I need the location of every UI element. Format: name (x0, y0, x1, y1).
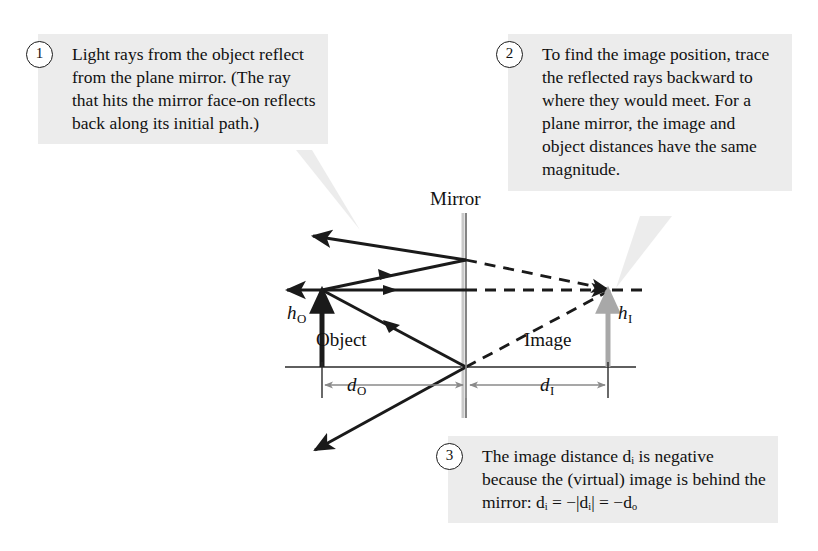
callout-1-text: Light rays from the object reflect from … (72, 43, 318, 135)
callout-step-2: 2 To find the image position, trace the … (508, 34, 792, 191)
reflected-ray-lower (315, 367, 466, 450)
object-label: Object (316, 329, 367, 351)
image-distance-label: dI (540, 374, 554, 399)
callout-1-pointer (296, 150, 360, 230)
figure-page: Mirror Object Image hO hI dO dI 1 Light … (0, 0, 818, 551)
incident-ray-upper-arrowhead (378, 269, 393, 280)
incident-ray-upper (322, 260, 466, 290)
callout-2-pointer (616, 216, 672, 288)
callout-2-text: To find the image position, trace the re… (542, 43, 782, 182)
mirror-label: Mirror (430, 188, 481, 210)
callout-2-number: 2 (496, 41, 523, 68)
callout-3-text: The image distance dᵢ is negative becaus… (482, 445, 768, 514)
image-distance-subscript: I (550, 383, 554, 398)
callout-1-number: 1 (26, 41, 53, 68)
object-distance-symbol: d (347, 374, 357, 395)
object-height-label: hO (287, 302, 306, 327)
image-height-symbol: h (618, 302, 628, 323)
object-distance-subscript: O (357, 383, 366, 398)
image-height-label: hI (618, 302, 632, 327)
incident-ray-normal-arrowhead (383, 285, 398, 295)
reflected-ray-upper (313, 236, 466, 260)
object-distance-label: dO (347, 374, 366, 399)
callout-step-3: 3 The image distance dᵢ is negative beca… (448, 436, 778, 523)
image-distance-symbol: d (540, 374, 550, 395)
image-label: Image (524, 329, 571, 351)
object-height-symbol: h (287, 302, 297, 323)
callout-step-1: 1 Light rays from the object reflect fro… (38, 34, 328, 144)
virtual-ray-upper (466, 260, 607, 289)
image-height-subscript: I (628, 311, 632, 326)
object-height-subscript: O (297, 311, 306, 326)
callout-3-number: 3 (436, 443, 463, 470)
